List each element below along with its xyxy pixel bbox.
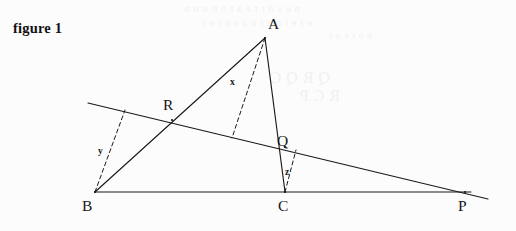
dashed-lines-group <box>95 38 296 192</box>
vertex-dots-group <box>94 37 466 193</box>
point-label-b: B <box>82 198 92 214</box>
side-AC <box>265 38 285 192</box>
point-label-q: Q <box>277 133 288 149</box>
vertex-dot-c <box>284 191 286 193</box>
vertex-dot-a <box>264 37 266 39</box>
vertex-dot-p <box>464 191 466 193</box>
figure-page: figure 1 ABCPQR xyz n e s d r t e a t o … <box>0 0 516 231</box>
geometry-figure <box>0 0 516 231</box>
point-label-a: A <box>268 16 279 32</box>
vertex-dot-b <box>94 191 96 193</box>
vertex-dot-r <box>171 119 173 121</box>
transversal <box>88 103 488 199</box>
length-label-y: y <box>98 147 103 157</box>
point-label-p: P <box>458 198 467 214</box>
point-label-r: R <box>163 97 173 113</box>
figure-caption: figure 1 <box>13 20 62 37</box>
length-label-z: z <box>285 168 289 178</box>
point-label-c: C <box>278 198 288 214</box>
length-label-x: x <box>230 78 235 88</box>
